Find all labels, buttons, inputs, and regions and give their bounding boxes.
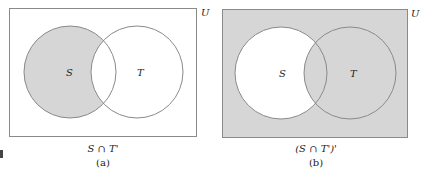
expression-b: (S ∩ T')' <box>295 143 337 154</box>
sublabel-b: (b) <box>309 157 323 168</box>
set-s-label-b: S <box>279 68 286 79</box>
panel-b: U S T (S ∩ T')' (b) <box>211 0 422 180</box>
universe-label-a: U <box>201 7 210 18</box>
venn-figure: U S T S ∩ T' (a) U S T (S ∩ T')' (b) <box>0 0 422 180</box>
sublabel-a: (a) <box>96 157 110 168</box>
expression-a: S ∩ T' <box>87 143 118 154</box>
panel-a: U S T S ∩ T' (a) <box>10 7 211 168</box>
universe-label-b: U <box>411 8 420 19</box>
set-s-label-a: S <box>66 67 73 78</box>
